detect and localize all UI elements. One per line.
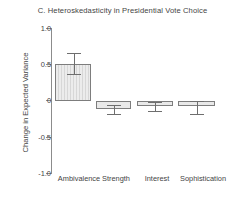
x-tick-label-sophistication: Sophistication — [170, 175, 236, 182]
y-axis-ticks: 1.0 0.5 0 -0.5 -1.0 — [0, 0, 51, 198]
error-cap-strength-low — [107, 114, 121, 115]
y-tick-label: 1.0 — [7, 25, 51, 32]
error-cap-interest-high — [148, 102, 162, 103]
error-cap-strength-high — [107, 105, 121, 106]
y-tick-label: 0 — [7, 97, 51, 104]
plot-area — [51, 28, 239, 173]
error-cap-sophistication-low — [190, 114, 204, 115]
error-bar-strength — [114, 105, 115, 114]
y-tick-label: -1.0 — [7, 170, 51, 177]
error-bar-sophistication — [197, 101, 198, 113]
error-cap-ambivalence-low — [67, 74, 81, 75]
error-bar-ambivalence — [74, 53, 75, 74]
error-cap-interest-low — [148, 111, 162, 112]
error-cap-ambivalence-high — [67, 53, 81, 54]
x-tick-label-strength: Strength — [92, 175, 140, 182]
error-cap-sophistication-high — [190, 101, 204, 102]
y-tick-label: 0.5 — [7, 61, 51, 68]
y-tick-label: -0.5 — [7, 134, 51, 141]
chart-figure: C. Heteroskedasticity in Presidential Vo… — [0, 0, 245, 198]
error-bar-interest — [155, 102, 156, 111]
